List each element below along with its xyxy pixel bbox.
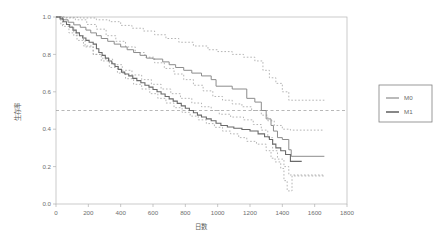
legend-box	[379, 85, 432, 122]
x-tick-label: 1800	[340, 209, 354, 216]
legend-label-M1: M1	[404, 108, 413, 115]
legend-label-M0: M0	[404, 94, 413, 101]
y-tick-label: 0.8	[42, 51, 51, 58]
x-tick-label: 600	[148, 209, 159, 216]
x-tick-label: 200	[83, 209, 94, 216]
y-tick-label: 0.2	[42, 163, 51, 170]
y-axis-title: 生存率	[13, 102, 22, 121]
x-tick-label: 1600	[308, 209, 322, 216]
y-tick-label: 0.6	[42, 88, 51, 95]
legend: M0M1	[379, 85, 432, 122]
x-tick-label: 1000	[211, 209, 225, 216]
x-tick-label: 0	[54, 209, 58, 216]
y-tick-label: 1.0	[42, 13, 51, 20]
y-tick-label: 0.4	[42, 125, 51, 132]
kaplan-meier-plot: 0.00.20.40.60.81.0 020040060080010001200…	[0, 0, 446, 242]
x-axis-title: 日数	[195, 222, 208, 231]
x-tick-label: 800	[180, 209, 191, 216]
x-tick-label: 400	[116, 209, 127, 216]
x-tick-label: 1400	[275, 209, 289, 216]
y-tick-label: 0.0	[42, 200, 51, 207]
survival-chart-figure: 0.00.20.40.60.81.0 020040060080010001200…	[0, 0, 446, 242]
x-tick-label: 1200	[243, 209, 257, 216]
